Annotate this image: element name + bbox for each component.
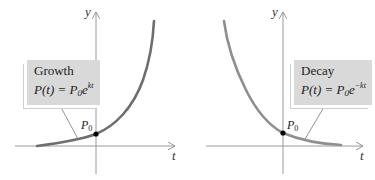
decay-initial-point: [280, 130, 285, 135]
decay-formula: P(t) = P0e−kt: [301, 78, 366, 101]
growth-formula-exp: kt: [88, 81, 94, 90]
growth-t-axis-label: t: [172, 148, 176, 164]
decay-t-axis-label: t: [360, 148, 364, 164]
decay-formula-exp: −kt: [355, 81, 366, 90]
growth-y-axis-label: y: [85, 4, 91, 20]
growth-title: Growth: [34, 63, 94, 78]
growth-label-box: Growth P(t) = P0ekt: [27, 60, 100, 105]
growth-formula-lhs: P(t) = P: [34, 82, 77, 97]
growth-initial-point: [93, 131, 98, 136]
decay-y-axis-label: y: [272, 4, 278, 20]
decay-formula-lhs: P(t) = P: [301, 82, 344, 97]
decay-p0-sub: 0: [294, 124, 298, 133]
decay-label-box: Decay P(t) = P0e−kt: [294, 60, 372, 105]
growth-formula: P(t) = P0ekt: [34, 78, 94, 101]
decay-p0-label: P0: [287, 118, 298, 133]
growth-p0-label: P0: [81, 118, 92, 133]
growth-p0-sub: 0: [88, 124, 92, 133]
decay-title: Decay: [301, 63, 366, 78]
